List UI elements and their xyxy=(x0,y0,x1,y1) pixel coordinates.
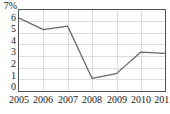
y-axis-tick-label: 1 xyxy=(11,71,16,81)
line-chart: 7% 6 5 4 3 2 1 0 2005 2006 2007 2008 200… xyxy=(0,0,170,114)
y-axis-tick-label: 6 xyxy=(11,13,16,23)
x-axis-tick-label: 2007 xyxy=(58,94,78,106)
y-axis-tick-label: 0 xyxy=(11,82,16,92)
x-axis-tick-label: 2009 xyxy=(107,94,127,106)
x-axis-tick-label: 2008 xyxy=(82,94,102,106)
plot-area xyxy=(18,9,166,92)
y-axis-tick-label: 2 xyxy=(11,59,16,69)
x-axis-tick-label: 2006 xyxy=(33,94,53,106)
y-axis-tick-label: 3 xyxy=(11,47,16,57)
y-axis-tick-label: 4 xyxy=(11,36,16,46)
y-axis-tick-label: 7% xyxy=(4,1,17,11)
x-axis-tick-label: 2011 xyxy=(154,94,170,106)
data-series-line xyxy=(19,10,165,91)
x-axis: 2005 2006 2007 2008 2009 2010 2011 xyxy=(0,94,170,114)
x-axis-tick-label: 2005 xyxy=(9,94,29,106)
x-axis-tick-label: 2010 xyxy=(131,94,151,106)
y-axis-tick-label: 5 xyxy=(11,24,16,34)
